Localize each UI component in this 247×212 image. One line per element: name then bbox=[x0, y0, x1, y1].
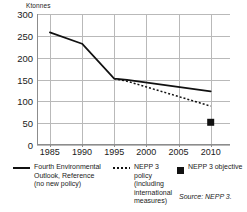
legend-item-nepp3-policy[interactable]: NEPP 3 policy (including international m… bbox=[113, 163, 175, 206]
series-marker-2 bbox=[207, 119, 214, 126]
dotted-line-glyph-icon bbox=[113, 167, 130, 169]
x-tick-2010: 2010 bbox=[201, 147, 221, 157]
legend-item-nepp3-policy-label: NEPP 3 policy (including international m… bbox=[134, 163, 175, 206]
x-axis-tick-labels: 198519901995200020052010 bbox=[37, 147, 230, 161]
y-tick-250: 250 bbox=[17, 30, 33, 41]
legend-item-nepp3-objective-label: NEPP 3 objective bbox=[188, 163, 242, 172]
legend-item-nepp3-objective[interactable]: NEPP 3 objective bbox=[177, 163, 247, 174]
legend-item-reference-label: Fourth Environmental Outlook, Reference … bbox=[34, 163, 101, 189]
x-tick-2000: 2000 bbox=[136, 147, 156, 157]
x-tick-1985: 1985 bbox=[40, 147, 60, 157]
x-tick-1990: 1990 bbox=[72, 147, 92, 157]
x-tick-1995: 1995 bbox=[104, 147, 124, 157]
y-tick-150: 150 bbox=[17, 74, 33, 85]
y-tick-200: 200 bbox=[17, 52, 33, 63]
source-note: Source: NEPP 3. bbox=[179, 193, 232, 200]
filled-square-glyph-icon bbox=[177, 167, 184, 174]
y-tick-300: 300 bbox=[17, 9, 33, 20]
chart-figure: Ktonnes 050100150200250300 1985199019952… bbox=[0, 0, 247, 212]
solid-line-glyph-icon bbox=[13, 167, 30, 169]
y-tick-50: 50 bbox=[22, 118, 33, 129]
chart-legend: Fourth Environmental Outlook, Reference … bbox=[0, 163, 247, 212]
gridline-y-0 bbox=[37, 145, 230, 146]
y-axis-tick-labels: 050100150200250300 bbox=[0, 14, 33, 145]
plot-area bbox=[37, 14, 230, 145]
series-layer bbox=[37, 14, 230, 145]
x-tick-2005: 2005 bbox=[169, 147, 189, 157]
y-tick-0: 0 bbox=[28, 140, 33, 151]
legend-item-reference[interactable]: Fourth Environmental Outlook, Reference … bbox=[13, 163, 113, 189]
y-tick-100: 100 bbox=[17, 96, 33, 107]
series-line-1 bbox=[114, 79, 211, 107]
